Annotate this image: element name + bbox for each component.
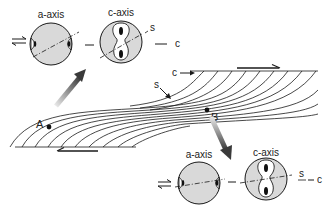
bottom-a-axis-label: a-axis: [186, 149, 213, 160]
bottom-s-label: s: [299, 168, 304, 179]
arrow-b-to-bottom-figures-icon: [211, 117, 232, 160]
point-a-marker: [47, 125, 52, 130]
shear-zone: [10, 71, 318, 147]
top-c-label: c: [175, 38, 180, 49]
top-c-axis-pole-figure: [100, 21, 142, 63]
bottom-c-label: c: [317, 174, 322, 185]
zone-c-label: c: [172, 67, 177, 78]
zone-s-arrow-icon: [160, 88, 171, 99]
top-s-leader: [145, 31, 148, 33]
bottom-c-axis-pole-figure: [240, 158, 292, 200]
upper-shear-arrow-icon: [237, 65, 280, 69]
point-a-label: A: [36, 118, 44, 130]
bottom-c-axis-label: c-axis: [253, 147, 279, 158]
zone-s-label: s: [154, 79, 159, 90]
arrow-a-to-top-figures-icon: [56, 69, 86, 106]
point-b-marker: [205, 108, 210, 113]
top-a-axis-label: a-axis: [38, 9, 65, 20]
top-c-axis-label: c-axis: [108, 7, 134, 18]
bottom-a-axis-pole-figure: [175, 162, 225, 204]
shear-zone-diagram: a-axis c-axis s c: [0, 0, 327, 212]
top-sense-of-shear-icon: [12, 37, 26, 46]
lower-shear-arrow-icon: [57, 148, 98, 152]
top-s-label: s: [150, 22, 155, 33]
bottom-sense-of-shear-icon: [158, 180, 171, 189]
top-a-axis-pole-figure: [30, 23, 79, 65]
